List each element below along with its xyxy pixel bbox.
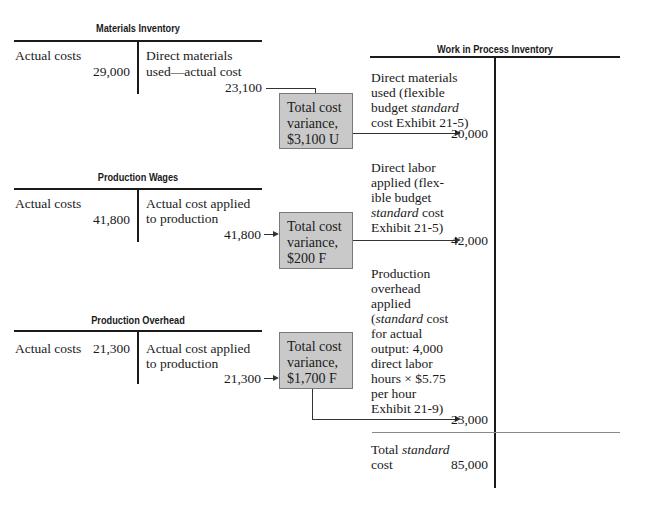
variance-box-wages: Total cost variance, $200 F [279, 212, 353, 269]
production-wages-title: Production Wages [24, 172, 252, 183]
arrow-line [353, 133, 455, 134]
t-account-divider [137, 188, 139, 242]
work-in-process-title: Work in Process Inventory [380, 44, 610, 55]
entry-amount: 23,000 [451, 412, 488, 427]
total-rule-line [372, 432, 620, 433]
variance-box-text: Total cost [287, 100, 352, 116]
entry-text: (standard cost [371, 311, 448, 326]
entry-amount: 20,000 [451, 126, 488, 141]
credit-label-line2: to production [146, 211, 218, 226]
credit-label-line1: Actual cost applied [146, 196, 250, 211]
connector-line [312, 389, 313, 419]
variance-box-overhead: Total cost variance, $1,700 F [279, 332, 353, 389]
entry-text: hours × $5.75 [371, 371, 446, 386]
entry-text: Exhibit 21-5) [371, 220, 443, 235]
entry-text: per hour [371, 386, 416, 401]
variance-box-materials: Total cost variance, $3,100 U [279, 93, 353, 149]
variance-box-text: variance, [287, 235, 352, 251]
entry-text: Direct labor [371, 160, 436, 175]
credit-amount: 21,300 [224, 371, 261, 386]
debit-label: Actual costs [15, 48, 81, 63]
credit-label-line1: Actual cost applied [146, 341, 250, 356]
variance-box-text: Total cost [287, 219, 352, 235]
entry-text: budget standard [371, 100, 459, 115]
debit-label: Actual costs [15, 341, 81, 356]
credit-label-line1: Direct materials [146, 48, 233, 63]
entry-amount: 42,000 [451, 233, 488, 248]
debit-amount: 41,800 [93, 212, 130, 227]
variance-box-amount: $200 F [287, 251, 352, 267]
materials-inventory-title: Materials Inventory [24, 23, 252, 34]
t-account-divider [494, 56, 496, 488]
entry-text: applied [371, 296, 411, 311]
entry-text: Exhibit 21-9) [371, 401, 443, 416]
credit-amount: 41,800 [224, 227, 261, 242]
arrow-line [264, 234, 273, 235]
credit-label-line2: to production [146, 356, 218, 371]
debit-amount: 21,300 [93, 341, 130, 356]
arrow-line [353, 240, 455, 241]
t-account-divider [137, 330, 139, 384]
entry-text: output: 4,000 [371, 341, 443, 356]
credit-label-line2: used—actual cost [146, 64, 242, 79]
debit-amount: 29,000 [93, 64, 130, 79]
connector-line [266, 88, 316, 89]
entry-text: Direct materials [371, 70, 458, 85]
variance-box-text: variance, [287, 116, 352, 132]
entry-text: for actual [371, 326, 422, 341]
credit-amount: 23,100 [225, 80, 262, 95]
variance-box-amount: $1,700 F [287, 371, 352, 387]
production-overhead-title: Production Overhead [24, 315, 252, 326]
variance-box-amount: $3,100 U [287, 132, 352, 148]
t-account-divider [137, 40, 139, 94]
entry-text: overhead [371, 281, 420, 296]
arrow-line [312, 419, 455, 420]
entry-text: used (flexible [371, 85, 445, 100]
variance-box-text: Total cost [287, 339, 352, 355]
total-label: cost [371, 457, 393, 472]
arrow-line [264, 378, 273, 379]
variance-box-text: variance, [287, 355, 352, 371]
entry-text: standard cost [371, 205, 444, 220]
total-amount: 85,000 [451, 457, 488, 472]
entry-text: applied (flex- [371, 175, 444, 190]
entry-text: ible budget [371, 190, 431, 205]
total-label: Total standard [371, 442, 449, 457]
entry-text: Production [371, 266, 430, 281]
debit-label: Actual costs [15, 196, 81, 211]
entry-text: direct labor [371, 356, 433, 371]
